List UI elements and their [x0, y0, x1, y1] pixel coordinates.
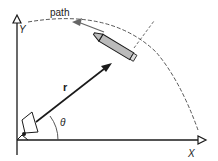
theta-label: θ [60, 117, 66, 128]
line-of-sight [134, 21, 154, 48]
projectile-diagram: path Y X r θ [0, 0, 218, 161]
r-vector [36, 69, 104, 122]
x-axis-arrow-icon [198, 136, 206, 144]
y-axis-arrow-icon [13, 15, 21, 23]
path-arrow-shaft [78, 22, 104, 32]
x-axis-label: X [187, 148, 195, 159]
r-vector-label: r [63, 81, 68, 93]
angle-arc [50, 116, 58, 140]
x-axis [17, 136, 206, 144]
y-axis-label: Y [19, 24, 27, 35]
trajectory-path [28, 19, 198, 130]
path-label: path [50, 7, 69, 18]
radar-dish-icon [17, 112, 38, 140]
rocket-icon [92, 30, 137, 62]
y-axis [13, 15, 21, 155]
